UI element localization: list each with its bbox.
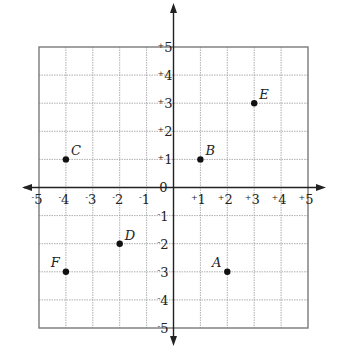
point-label: B: [204, 143, 215, 158]
x-tick-label: +2: [218, 192, 233, 207]
y-axis-up-arrow-icon: [170, 3, 177, 13]
y-tick-label: +5: [158, 40, 173, 55]
x-axis-right-arrow-icon: [316, 184, 326, 191]
point-dot-icon: [197, 156, 203, 162]
x-tick-label: -2: [112, 192, 123, 207]
x-tick-label: -4: [58, 192, 69, 207]
y-tick-label: +1: [158, 152, 173, 167]
point-label: E: [258, 87, 269, 102]
x-axis-left-arrow-icon: [22, 184, 32, 191]
point-label: D: [124, 228, 136, 243]
y-tick-label: -1: [158, 209, 169, 224]
x-axis-tick-labels: -5-4-3-2-1+1+2+3+4+5: [32, 192, 314, 207]
x-tick-label: -3: [85, 192, 96, 207]
x-tick-label: +4: [272, 192, 287, 207]
point-label: C: [71, 143, 81, 158]
y-tick-label: -5: [158, 321, 169, 336]
x-tick-label: -1: [139, 192, 150, 207]
y-tick-label: +2: [158, 124, 173, 139]
point-dot-icon: [63, 269, 69, 275]
y-tick-label: +4: [158, 68, 173, 83]
y-tick-label: -2: [158, 237, 169, 252]
point-dot-icon: [63, 156, 69, 162]
x-tick-label: +1: [191, 192, 206, 207]
point-label: A: [211, 255, 221, 270]
point-dot-icon: [224, 269, 230, 275]
axes: [22, 3, 326, 346]
point-label: F: [50, 255, 61, 270]
y-tick-label: +3: [158, 96, 173, 111]
y-tick-label: -3: [158, 265, 169, 280]
x-tick-label: +5: [299, 192, 314, 207]
y-tick-label: -4: [158, 293, 169, 308]
x-tick-label: -5: [32, 192, 43, 207]
point-dot-icon: [117, 241, 123, 247]
y-axis-down-arrow-icon: [170, 336, 177, 346]
coordinate-plane: -5-4-3-2-1+1+2+3+4+5 +5+4+3+2+1-1-2-3-4-…: [0, 0, 343, 349]
origin-label: 0: [159, 180, 167, 195]
point-dot-icon: [251, 100, 257, 106]
x-tick-label: +3: [245, 192, 260, 207]
